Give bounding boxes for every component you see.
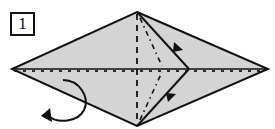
origami-diagram bbox=[0, 0, 275, 129]
turn-over-arrowhead-icon bbox=[41, 108, 52, 122]
step-number-badge: 1 bbox=[10, 12, 35, 36]
step-number: 1 bbox=[18, 14, 27, 33]
